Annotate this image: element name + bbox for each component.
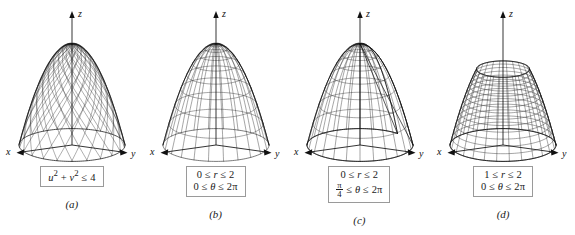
y-axis-label-d: y <box>561 148 567 159</box>
domain-line: π4 ≤ θ ≤ 2π <box>336 181 382 199</box>
x-axis-arrow-a <box>17 149 25 155</box>
z-axis-label-c: z <box>365 8 370 19</box>
domain-line: 1 ≤ r ≤ 2 <box>481 169 525 181</box>
y-axis-arrow-d <box>551 149 559 155</box>
y-axis-label-b: y <box>274 148 280 159</box>
surface-plot-b: z x y <box>144 0 288 168</box>
domain-line: 0 ≤ r ≤ 2 <box>336 169 382 181</box>
panel-a: z x y u2 + v2 ≤ 4 (a) <box>0 0 144 235</box>
z-axis-label-a: z <box>77 8 82 19</box>
y-axis-arrow-c <box>407 149 415 155</box>
plot-area-b: z x y <box>144 0 288 168</box>
surface-plot-c: z x y <box>288 0 432 168</box>
x-axis-arrow-b <box>160 149 168 155</box>
panel-b: z x y 0 ≤ r ≤ 2 0 ≤ θ ≤ 2π (b) <box>144 0 288 235</box>
y-axis-a <box>72 145 122 152</box>
x-axis-label-d: x <box>436 146 442 157</box>
z-axis-arrow-b <box>213 11 218 18</box>
domain-line: 0 ≤ r ≤ 2 <box>194 169 238 181</box>
panel-d: z x y 1 ≤ r ≤ 2 0 ≤ θ ≤ 2π (d) <box>431 0 575 235</box>
panel-label-c: (c) <box>353 214 365 226</box>
plot-area-c: z x y <box>288 0 432 168</box>
x-axis-arrow-d <box>448 149 456 155</box>
y-axis-label-a: y <box>130 148 136 159</box>
z-axis-label-b: z <box>221 8 226 19</box>
pi-over-four-fraction: π4 <box>336 181 342 199</box>
x-axis-a <box>22 145 72 152</box>
x-axis-d <box>453 145 503 152</box>
z-axis-arrow-d <box>501 11 506 18</box>
y-axis-label-c: y <box>418 148 424 159</box>
domain-box-d: 1 ≤ r ≤ 2 0 ≤ θ ≤ 2π <box>473 166 533 197</box>
domain-line: 0 ≤ θ ≤ 2π <box>481 181 525 193</box>
x-axis-label-c: x <box>293 146 299 157</box>
y-axis-arrow-b <box>264 149 272 155</box>
panel-c: z x y 0 ≤ r ≤ 2 π4 ≤ θ ≤ 2π (c) <box>288 0 432 235</box>
domain-box-c: 0 ≤ r ≤ 2 π4 ≤ θ ≤ 2π <box>328 166 390 203</box>
domain-line: 0 ≤ θ ≤ 2π <box>194 181 238 193</box>
domain-box-a: u2 + v2 ≤ 4 <box>40 166 103 187</box>
y-axis-b <box>216 145 266 152</box>
x-axis-label-a: x <box>5 146 11 157</box>
panel-label-a: (a) <box>65 198 78 210</box>
plot-area-d: z x y <box>431 0 575 168</box>
y-axis-d <box>503 145 553 152</box>
panel-label-b: (b) <box>209 208 222 220</box>
plot-area-a: z x y <box>0 0 144 168</box>
surface-plot-a: z x y <box>0 0 144 168</box>
domain-line: u2 + v2 ≤ 4 <box>48 169 95 183</box>
surface-plot-d: z x y <box>431 0 575 168</box>
x-axis-label-b: x <box>149 146 155 157</box>
panel-label-d: (d) <box>497 208 510 220</box>
x-axis-arrow-c <box>304 149 312 155</box>
z-axis-arrow-c <box>357 11 362 18</box>
domain-box-b: 0 ≤ r ≤ 2 0 ≤ θ ≤ 2π <box>186 166 246 197</box>
z-axis-arrow-a <box>69 11 74 18</box>
y-axis-arrow-a <box>120 149 128 155</box>
z-axis-label-d: z <box>508 8 513 19</box>
x-axis-b <box>166 145 216 152</box>
figure-four-paraboloids: z x y u2 + v2 ≤ 4 (a) z <box>0 0 575 235</box>
